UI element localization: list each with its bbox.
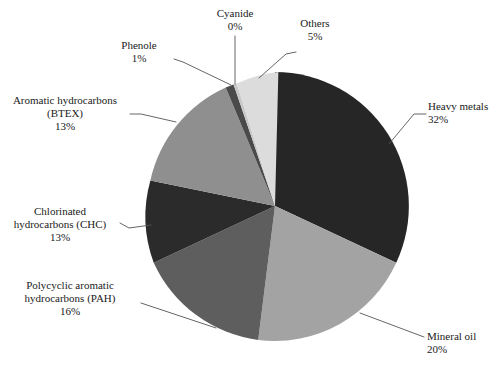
label-chc-name-line2: hydrocarbons (CHC) bbox=[0, 218, 120, 231]
label-pah-name-line2: hydrocarbons (PAH) bbox=[0, 292, 140, 305]
leader-line-heavy-metals bbox=[389, 114, 426, 144]
label-pah-name-line1: Polycyclic aromatic bbox=[26, 279, 114, 291]
label-mineral-oil-pct: 20% bbox=[427, 343, 476, 356]
label-mineral-oil-name: Mineral oil bbox=[427, 330, 476, 342]
label-phenole-pct: 1% bbox=[104, 52, 174, 65]
label-pah-pct: 16% bbox=[0, 305, 140, 318]
label-chc: Chlorinated hydrocarbons (CHC) 13% bbox=[0, 205, 120, 244]
label-btex-name-line2: (BTEX) bbox=[0, 107, 130, 120]
pie-slices bbox=[145, 72, 408, 341]
label-others: Others 5% bbox=[285, 17, 345, 43]
label-heavy-metals: Heavy metals 32% bbox=[428, 100, 488, 126]
label-mineral-oil: Mineral oil 20% bbox=[427, 330, 476, 356]
label-phenole-name: Phenole bbox=[121, 39, 156, 51]
leader-line-phenole bbox=[174, 59, 231, 85]
pie-chart-canvas bbox=[0, 0, 503, 376]
leader-line-btex bbox=[130, 114, 176, 122]
label-btex-name-line1: Aromatic hydrocarbons bbox=[13, 94, 117, 106]
label-chc-pct: 13% bbox=[0, 231, 120, 244]
label-phenole: Phenole 1% bbox=[104, 39, 174, 65]
label-heavy-metals-name: Heavy metals bbox=[428, 100, 488, 112]
label-btex: Aromatic hydrocarbons (BTEX) 13% bbox=[0, 94, 130, 133]
label-cyanide-pct: 0% bbox=[200, 20, 270, 33]
leader-line-mineral-oil bbox=[360, 313, 424, 337]
label-heavy-metals-pct: 32% bbox=[428, 113, 488, 126]
label-btex-pct: 13% bbox=[0, 120, 130, 133]
pie-chart-figure: Heavy metals 32% Mineral oil 20% Polycyc… bbox=[0, 0, 503, 376]
label-cyanide-name: Cyanide bbox=[217, 7, 254, 19]
label-cyanide: Cyanide 0% bbox=[200, 7, 270, 33]
label-others-name: Others bbox=[300, 17, 329, 29]
label-pah: Polycyclic aromatic hydrocarbons (PAH) 1… bbox=[0, 279, 140, 318]
label-chc-name-line1: Chlorinated bbox=[34, 205, 86, 217]
label-others-pct: 5% bbox=[285, 30, 345, 43]
